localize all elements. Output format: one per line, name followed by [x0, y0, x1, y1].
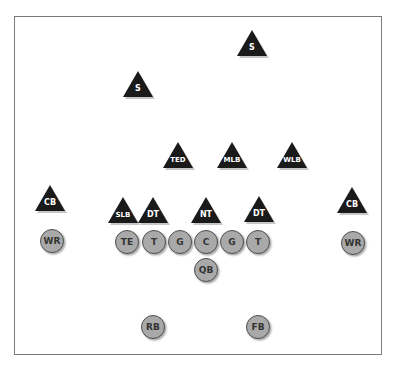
player-label: DT — [138, 210, 168, 220]
defender-slb: SLB — [108, 197, 138, 223]
defender-cb-left: CB — [35, 185, 65, 211]
player-label: CB — [35, 198, 65, 208]
offense-rb: RB — [141, 315, 165, 339]
defender-safety: S — [123, 71, 153, 97]
player-label: QB — [199, 265, 214, 275]
player-label: CB — [337, 200, 367, 210]
defender-cb-right: CB — [337, 187, 367, 213]
offense-wr-left: WR — [40, 229, 64, 253]
offense-wr-right: WR — [341, 231, 365, 255]
player-label: TED — [163, 155, 193, 165]
player-label: SLB — [108, 210, 138, 220]
player-label: WLB — [277, 155, 307, 165]
player-label: T — [151, 237, 157, 247]
player-label: WR — [44, 236, 61, 246]
offense-guard-left: G — [168, 230, 192, 254]
player-label: G — [228, 237, 235, 247]
player-label: WR — [345, 238, 362, 248]
defender-nt: NT — [191, 197, 221, 223]
player-label: G — [176, 237, 183, 247]
offense-te: TE — [115, 230, 139, 254]
offense-guard-right: G — [220, 230, 244, 254]
player-label: S — [123, 84, 153, 94]
defender-safety-deep: S — [237, 30, 267, 56]
player-label: S — [237, 43, 267, 53]
player-label: TE — [121, 237, 133, 247]
defender-wlb: WLB — [277, 142, 307, 168]
defender-ted: TED — [163, 142, 193, 168]
player-label: FB — [251, 322, 264, 332]
offense-tackle-right: T — [246, 230, 270, 254]
player-label: MLB — [217, 155, 247, 165]
defender-dt-right: DT — [244, 196, 274, 222]
player-label: C — [203, 237, 210, 247]
defender-mlb: MLB — [217, 142, 247, 168]
defender-dt-left: DT — [138, 197, 168, 223]
player-label: NT — [191, 210, 221, 220]
offense-tackle-left: T — [142, 230, 166, 254]
offense-qb: QB — [194, 258, 218, 282]
player-label: RB — [146, 322, 160, 332]
player-label: DT — [244, 209, 274, 219]
offense-fb: FB — [246, 315, 270, 339]
offense-center: C — [194, 230, 218, 254]
field-frame — [14, 16, 382, 355]
player-label: T — [255, 237, 261, 247]
